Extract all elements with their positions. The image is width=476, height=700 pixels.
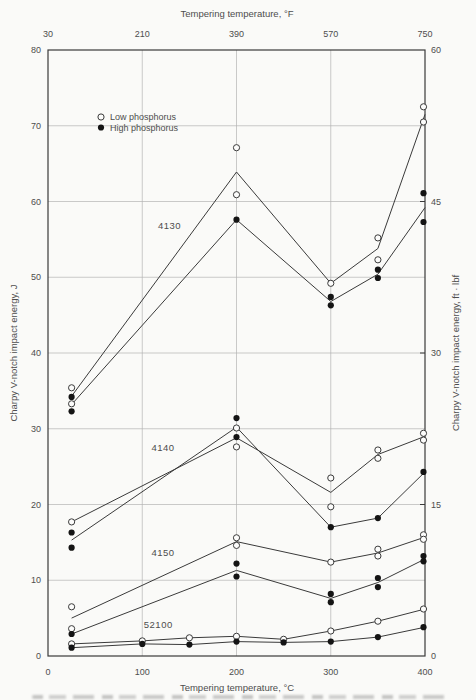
bottom-tick-label: 300	[323, 667, 338, 677]
legend-marker-open-icon	[98, 114, 104, 120]
data-point-52100-high-phosphorus	[328, 639, 334, 645]
data-point-52100-low-phosphorus	[233, 633, 239, 639]
series-line-4140-low-phosphorus	[72, 436, 425, 522]
right-tick-label: 60	[431, 45, 441, 55]
plot-area: 3021039057075001002003004000102030405060…	[31, 29, 441, 677]
data-point-4150-high-phosphorus	[233, 561, 239, 567]
left-tick-label: 20	[31, 500, 41, 510]
data-point-4150-high-phosphorus	[69, 631, 75, 637]
top-tick-label: 390	[229, 29, 244, 39]
right-tick-label: 30	[431, 348, 441, 358]
data-point-4130-high-phosphorus	[328, 294, 334, 300]
series-line-4130-low-phosphorus	[72, 114, 425, 396]
bottom-tick-label: 100	[135, 667, 150, 677]
data-point-52100-high-phosphorus	[186, 642, 192, 648]
data-point-4140-high-phosphorus	[233, 415, 239, 421]
data-point-4150-high-phosphorus	[420, 553, 426, 559]
data-point-4150-low-phosphorus	[233, 542, 239, 548]
right-tick-label: 45	[431, 197, 441, 207]
data-point-4130-low-phosphorus	[420, 119, 426, 125]
data-point-4140-low-phosphorus	[420, 430, 426, 436]
top-tick-label: 210	[135, 29, 150, 39]
data-point-4150-low-phosphorus	[420, 536, 426, 542]
right-tick-label: 0	[431, 651, 436, 661]
data-point-4150-low-phosphorus	[69, 604, 75, 610]
chart-canvas: Tempering temperature, °F Charpy V-notch…	[0, 0, 476, 700]
data-point-4130-low-phosphorus	[233, 145, 239, 151]
data-point-52100-low-phosphorus	[186, 635, 192, 641]
data-point-4130-low-phosphorus	[375, 235, 381, 241]
alloy-label-52100: 52100	[144, 619, 173, 630]
data-point-52100-high-phosphorus	[233, 639, 239, 645]
data-point-4140-low-phosphorus	[375, 455, 381, 461]
data-point-4140-low-phosphorus	[328, 475, 334, 481]
data-point-4140-high-phosphorus	[69, 529, 75, 535]
series-line-4150-low-phosphorus	[72, 537, 425, 618]
data-point-52100-low-phosphorus	[375, 618, 381, 624]
left-tick-label: 40	[31, 348, 41, 358]
data-point-4130-high-phosphorus	[420, 219, 426, 225]
cropped-caption-sliver	[32, 695, 448, 699]
alloy-label-4130: 4130	[158, 220, 181, 231]
data-point-4130-high-phosphorus	[420, 190, 426, 196]
data-point-4140-low-phosphorus	[233, 444, 239, 450]
data-point-4130-high-phosphorus	[69, 408, 75, 414]
data-point-52100-low-phosphorus	[420, 606, 426, 612]
data-point-52100-high-phosphorus	[375, 634, 381, 640]
bottom-tick-label: 0	[45, 667, 50, 677]
data-point-52100-high-phosphorus	[139, 641, 145, 647]
top-axis-title: Tempering temperature, °F	[180, 8, 293, 19]
data-point-4150-low-phosphorus	[328, 559, 334, 565]
data-point-4130-high-phosphorus	[375, 275, 381, 281]
data-point-4130-high-phosphorus	[328, 302, 334, 308]
data-point-4140-high-phosphorus	[233, 434, 239, 440]
data-point-52100-high-phosphorus	[420, 624, 426, 630]
data-point-4130-high-phosphorus	[233, 217, 239, 223]
data-point-4130-low-phosphorus	[420, 104, 426, 110]
data-point-4150-high-phosphorus	[328, 599, 334, 605]
data-point-4140-low-phosphorus	[69, 519, 75, 525]
data-point-4150-high-phosphorus	[233, 573, 239, 579]
legend-marker-filled-icon	[98, 124, 104, 130]
bottom-axis-title: Tempering temperature, °C	[180, 682, 294, 693]
data-point-4150-high-phosphorus	[328, 591, 334, 597]
data-point-4130-low-phosphorus	[69, 401, 75, 407]
data-point-4140-high-phosphorus	[420, 469, 426, 475]
series-line-52100-low-phosphorus	[72, 609, 425, 644]
impact-energy-chart: Tempering temperature, °F Charpy V-notch…	[0, 0, 476, 700]
data-point-4150-high-phosphorus	[375, 575, 381, 581]
data-point-4140-high-phosphorus	[375, 515, 381, 521]
data-point-4150-low-phosphorus	[233, 535, 239, 541]
data-point-4150-low-phosphorus	[69, 626, 75, 632]
data-point-4140-high-phosphorus	[69, 545, 75, 551]
data-point-4130-high-phosphorus	[375, 267, 381, 273]
left-tick-label: 60	[31, 197, 41, 207]
data-point-4140-low-phosphorus	[233, 425, 239, 431]
data-point-4130-low-phosphorus	[328, 280, 334, 286]
right-tick-label: 15	[431, 500, 441, 510]
bottom-tick-label: 200	[229, 667, 244, 677]
right-axis-title: Charpy V-notch impact energy, ft · lbf	[450, 275, 461, 431]
data-point-4150-high-phosphorus	[375, 584, 381, 590]
data-point-4150-low-phosphorus	[375, 553, 381, 559]
data-point-52100-high-phosphorus	[281, 639, 287, 645]
left-tick-label: 80	[31, 45, 41, 55]
bottom-tick-label: 400	[417, 667, 432, 677]
data-point-52100-high-phosphorus	[69, 645, 75, 651]
legend-label-low-phosphorus: Low phosphorus	[110, 112, 177, 122]
data-point-52100-low-phosphorus	[328, 628, 334, 634]
legend-label-high-phosphorus: High phosphorus	[110, 123, 179, 133]
left-tick-label: 0	[36, 651, 41, 661]
alloy-label-4150: 4150	[151, 547, 174, 558]
top-tick-label: 750	[417, 29, 432, 39]
data-point-4130-low-phosphorus	[375, 257, 381, 263]
data-point-4130-high-phosphorus	[69, 394, 75, 400]
data-point-4130-low-phosphorus	[233, 192, 239, 198]
top-tick-label: 570	[323, 29, 338, 39]
series-line-4130-high-phosphorus	[72, 208, 425, 405]
data-point-4140-low-phosphorus	[328, 504, 334, 510]
data-point-4150-low-phosphorus	[375, 546, 381, 552]
left-tick-label: 10	[31, 575, 41, 585]
data-point-4150-high-phosphorus	[420, 558, 426, 564]
data-point-4140-high-phosphorus	[328, 524, 334, 530]
